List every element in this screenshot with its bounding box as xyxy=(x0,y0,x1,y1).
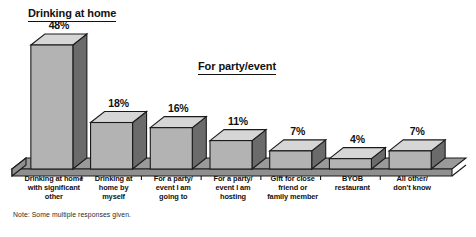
value-label-1: 48% xyxy=(49,19,69,31)
category-label-7: All other/don't know xyxy=(376,174,448,192)
bar-6 xyxy=(329,148,385,169)
category-label-line: don't know xyxy=(376,183,448,192)
value-label-3: 16% xyxy=(168,102,188,114)
value-label-5: 7% xyxy=(290,125,305,137)
bar-3 xyxy=(150,117,206,169)
category-label-line: family member xyxy=(257,192,329,201)
bar-7 xyxy=(389,140,445,169)
category-label-line: All other/ xyxy=(376,174,448,183)
section-title-for-party-event: For party/event xyxy=(198,60,276,75)
bar-4 xyxy=(210,130,266,169)
bar-1 xyxy=(31,34,87,169)
chart-bars xyxy=(31,34,445,169)
value-label-7: 7% xyxy=(410,125,425,137)
value-label-4: 11% xyxy=(228,115,248,127)
chart-footnote: Note: Some multiple responses given. xyxy=(13,211,131,218)
chart-container: Drinking at home For party/event 48%18%1… xyxy=(0,0,476,237)
value-label-2: 18% xyxy=(108,97,128,109)
bar-5 xyxy=(270,140,326,169)
bar-2 xyxy=(91,112,147,170)
value-label-6: 4% xyxy=(350,133,365,145)
section-title-drinking-at-home: Drinking at home xyxy=(28,7,116,22)
